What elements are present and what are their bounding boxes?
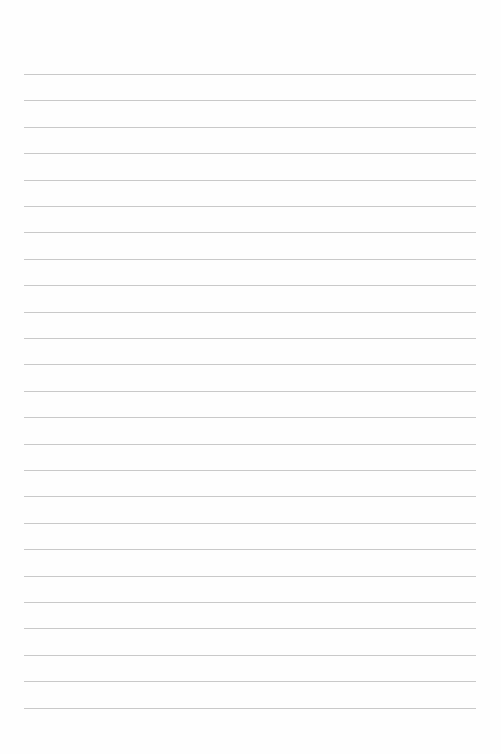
ruled-line xyxy=(24,232,476,233)
ruled-line xyxy=(24,576,476,577)
ruled-line xyxy=(24,391,476,392)
ruled-line xyxy=(24,496,476,497)
ruled-line xyxy=(24,549,476,550)
ruled-line xyxy=(24,127,476,128)
ruled-line xyxy=(24,153,476,154)
ruled-line xyxy=(24,180,476,181)
ruled-line xyxy=(24,312,476,313)
ruled-line xyxy=(24,206,476,207)
ruled-line xyxy=(24,470,476,471)
ruled-line xyxy=(24,444,476,445)
ruled-line xyxy=(24,285,476,286)
ruled-line xyxy=(24,259,476,260)
ruled-line xyxy=(24,74,476,75)
ruled-line xyxy=(24,681,476,682)
ruled-line xyxy=(24,364,476,365)
ruled-line xyxy=(24,708,476,709)
ruled-line xyxy=(24,655,476,656)
ruled-line xyxy=(24,602,476,603)
ruled-line xyxy=(24,338,476,339)
ruled-line xyxy=(24,628,476,629)
ruled-line xyxy=(24,100,476,101)
ruled-line xyxy=(24,417,476,418)
lined-paper-page xyxy=(0,0,501,754)
ruled-line xyxy=(24,523,476,524)
